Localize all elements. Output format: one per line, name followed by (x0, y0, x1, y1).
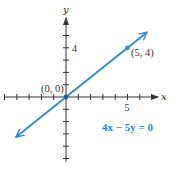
y-axis-label: y (62, 4, 69, 15)
line-4x-minus-5y (66, 32, 147, 97)
equation-label: 4x − 5y = 0 (102, 121, 154, 133)
line-4x-minus-5y-lower (16, 97, 66, 137)
y-tick-label-4: 4 (72, 43, 77, 54)
x-axis-label: x (161, 91, 167, 102)
point-5-4-label: (5, 4) (131, 47, 154, 59)
x-axis: x 5 (4, 91, 167, 113)
origin-point-label: (0, 0) (41, 83, 64, 95)
y-axis: y 4 (62, 4, 77, 162)
x-tick-label-5: 5 (125, 102, 130, 113)
point-5-4 (125, 45, 130, 50)
line-graph: x 5 y 4 (0, 0) (5, 4) 4x − 5y = 0 (0, 0, 174, 174)
point-origin (64, 95, 69, 100)
